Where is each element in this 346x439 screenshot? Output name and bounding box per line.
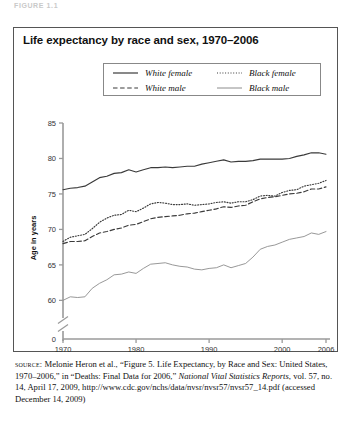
x-tick-label: 1980: [128, 345, 145, 353]
y-tick-label: 85: [48, 119, 56, 128]
source-publication: National Vital Statistics Reports: [178, 371, 288, 381]
series-line: [63, 153, 326, 190]
axis-titles: Age in years: [29, 216, 38, 261]
y-tick-label: 65: [48, 261, 56, 270]
chart-svg: 0606570758085 19701980199020002006 Age i…: [14, 28, 339, 353]
y-tick-label: 70: [48, 225, 56, 234]
data-series: [63, 153, 326, 301]
x-tick-label: 1970: [55, 345, 72, 353]
source-kicker: source:: [15, 360, 42, 369]
y-axis-title: Age in years: [29, 216, 38, 261]
x-tick-label: 2006: [318, 345, 335, 353]
series-line: [63, 232, 326, 301]
x-tick-label: 1990: [201, 345, 218, 353]
series-line: [63, 180, 326, 241]
plot-area: 0606570758085 19701980199020002006 Age i…: [14, 28, 339, 353]
x-tick-label: 2000: [274, 345, 291, 353]
y-tick-label: 60: [48, 296, 56, 305]
y-axis: 0606570758085: [48, 119, 68, 344]
series-line: [63, 187, 326, 244]
y-tick-label: 80: [48, 154, 56, 163]
source-note: source: Melonie Heron et al., “Figure 5.…: [15, 359, 335, 405]
x-axis: 19701980199020002006: [55, 339, 335, 353]
y-tick-label: 0: [52, 335, 56, 344]
figure-box: Life expectancy by race and sex, 1970–20…: [13, 27, 338, 352]
figure-number-label: FIGURE 1.1: [14, 2, 58, 9]
y-tick-label: 75: [48, 190, 56, 199]
